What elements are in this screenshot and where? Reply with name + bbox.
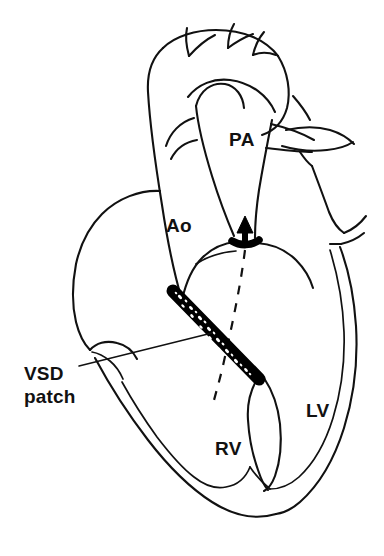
left-heart-border-group: [73, 191, 160, 379]
aortic-arch-group: [148, 24, 289, 300]
ventricular-roof-right: [257, 243, 313, 288]
label-vsd-line2: patch: [24, 386, 76, 407]
lv-lateral-wall-outer: [276, 247, 357, 514]
svc-right-border: [293, 96, 310, 120]
head-vessel-innominate: [186, 28, 189, 56]
right-atrium-veins-group: [282, 96, 366, 244]
dashed-flow-path: [213, 250, 245, 404]
flow-axis-group: [213, 250, 245, 404]
right-atrium-notch: [300, 152, 312, 166]
vsd-patch-group: [173, 291, 259, 379]
head-vessel-carotid-branch: [228, 34, 253, 48]
inferior-vena-cava-lower: [341, 233, 364, 244]
left-heart-lateral-border: [73, 264, 90, 350]
label-ao: Ao: [166, 215, 192, 236]
ventricular-mass-group: [95, 247, 357, 517]
vsd-patch-leader-line: [79, 333, 212, 366]
label-vsd-line1: VSD: [24, 363, 64, 384]
heart-anatomy-diagram: PA Ao LV RV VSD patch: [0, 0, 384, 556]
aortic-arch-outer-wall: [148, 48, 182, 300]
septum-left-edge: [248, 381, 268, 490]
vsd-patch-band: [173, 291, 259, 379]
figure-root: PA Ao LV RV VSD patch: [0, 0, 384, 556]
head-vessel-subclavian-branch: [253, 53, 276, 55]
aortic-root-roof-left: [182, 242, 236, 300]
right-atrium-free-wall: [312, 166, 344, 233]
left-appendage-tip: [90, 342, 137, 359]
flow-direction-arrow-icon: [237, 216, 253, 243]
septum-right-edge: [264, 378, 281, 491]
label-rv: RV: [215, 438, 242, 459]
pa-trunk-right-wall: [255, 120, 272, 238]
rv-free-wall-inner: [122, 382, 250, 488]
label-pa: PA: [229, 129, 255, 150]
right-pulmonary-vein-lower: [282, 142, 353, 151]
aortic-root-group: [182, 242, 313, 300]
pa-trunk-left-wall: [196, 106, 234, 236]
left-pa-branch-lower: [171, 140, 197, 159]
vsd-leader-group: [79, 333, 212, 366]
pa-bifurcation-arc: [196, 84, 244, 108]
head-vessel-subclavian: [253, 32, 264, 55]
left-atrial-appendage-top: [76, 191, 160, 264]
head-vessel-innominate-branch: [189, 35, 215, 56]
inferior-vena-cava-upper: [344, 216, 366, 233]
aortic-arch-descending: [262, 56, 289, 135]
right-pulmonary-vein-upper: [286, 127, 354, 144]
flow-arrow-group: [237, 216, 253, 243]
label-lv: LV: [306, 400, 330, 421]
